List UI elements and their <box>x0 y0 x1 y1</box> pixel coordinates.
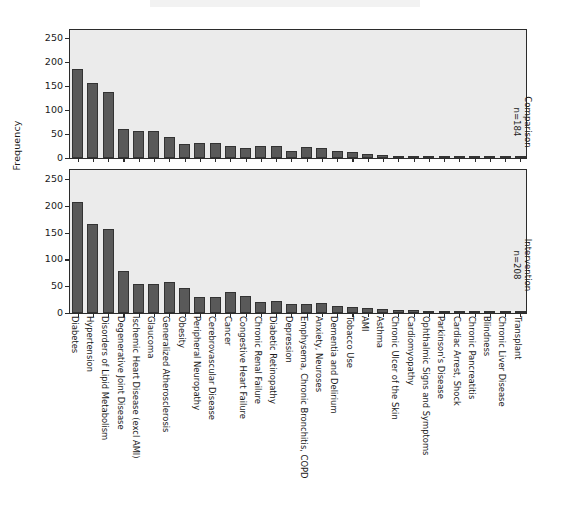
x-axis-category-label: Cardiac Arrest, Shock <box>452 316 462 406</box>
x-axis-tick <box>505 158 506 162</box>
x-axis-category-label: Chronic Liver Disease <box>497 316 507 407</box>
bar <box>332 306 343 314</box>
x-axis-category-label: Depression <box>284 316 294 363</box>
x-axis-category-label: Cardiomyopathy <box>406 316 416 385</box>
panel-title-comparison: Comparison n=184 <box>512 62 533 182</box>
x-axis-tick <box>322 158 323 162</box>
figure-top-band <box>150 0 420 7</box>
bar <box>316 148 327 158</box>
y-tick-label: 0 <box>57 307 63 318</box>
y-tick-mark <box>65 233 70 234</box>
y-tick-mark <box>65 259 70 260</box>
panel-title-intervention: Intervention n=208 <box>512 205 533 325</box>
bar <box>72 69 83 158</box>
x-axis-tick <box>459 158 460 162</box>
bar <box>133 284 144 313</box>
x-axis-tick <box>291 158 292 162</box>
y-tick-mark <box>65 38 70 39</box>
x-axis-tick <box>429 158 430 162</box>
y-tick-label: 50 <box>51 280 63 291</box>
y-tick-label: 150 <box>45 227 63 238</box>
y-tick-mark <box>65 158 70 159</box>
bar <box>87 83 98 158</box>
x-axis-tick <box>169 158 170 162</box>
y-tick-mark <box>65 206 70 207</box>
bar <box>133 131 144 158</box>
plot-area-comparison <box>70 30 526 158</box>
bar <box>87 224 98 313</box>
x-axis-category-label: Congestive Heart Failure <box>238 316 248 419</box>
bar <box>164 282 175 313</box>
x-axis-category-label: Chronic Ulcer of the Skin <box>390 316 400 420</box>
figure: Frequency 050100150200250 Comparison n=1… <box>0 0 586 528</box>
y-tick-label: 200 <box>45 200 63 211</box>
x-axis-category-label: Diabetic Retinopathy <box>268 316 278 404</box>
bar <box>194 143 205 158</box>
bar <box>240 296 251 313</box>
x-axis-tick <box>200 158 201 162</box>
bar <box>103 92 114 158</box>
x-axis-category-label: Generalized Atherosclerosis <box>161 316 171 432</box>
y-tick-label: 200 <box>45 56 63 67</box>
x-axis-category-label: Blindness <box>482 316 492 356</box>
x-axis-category-label: Cancer <box>223 316 233 346</box>
x-axis-tick <box>337 158 338 162</box>
bar <box>255 146 266 158</box>
bar <box>148 131 159 158</box>
bar <box>271 301 282 313</box>
bar <box>316 303 327 313</box>
y-tick-label: 50 <box>51 128 63 139</box>
bar <box>240 148 251 158</box>
x-axis-category-label: Diabetes <box>70 316 80 353</box>
x-axis-tick <box>307 158 308 162</box>
x-axis-category-label: Hypertension <box>85 316 95 372</box>
y-tick-mark <box>65 134 70 135</box>
y-tick-label: 100 <box>45 104 63 115</box>
y-tick-mark <box>65 179 70 180</box>
x-axis-tick <box>246 158 247 162</box>
x-axis-tick <box>383 158 384 162</box>
y-tick-mark <box>65 86 70 87</box>
x-axis-category-label: Asthma <box>375 316 385 348</box>
bar <box>271 146 282 158</box>
bar <box>286 151 297 158</box>
x-axis-tick <box>368 158 369 162</box>
y-tick-mark <box>65 286 70 287</box>
bar <box>210 143 221 158</box>
x-axis-category-label: Chronic Pancreatitis <box>467 316 477 399</box>
bar <box>118 271 129 313</box>
x-axis-category-label: Chronic Renal Failure <box>253 316 263 404</box>
bar <box>301 304 312 313</box>
x-axis-category-label: Degenerative Joint Disease <box>116 316 126 430</box>
x-axis-category-label: Emphysema, Chronic Bronchitis, COPD <box>299 316 309 479</box>
bar <box>225 146 236 158</box>
x-axis-category-label: Transplant <box>513 316 523 360</box>
y-tick-mark <box>65 110 70 111</box>
x-axis-category-label: Disorders of Lipid Metabolism <box>100 316 110 440</box>
plot-area-intervention <box>70 170 526 313</box>
bar <box>255 302 266 313</box>
bar-group-comparison <box>70 30 526 158</box>
bar <box>72 202 83 313</box>
x-axis-category-label: Glaucoma <box>146 316 156 358</box>
x-axis-tick <box>215 158 216 162</box>
x-axis-tick <box>398 158 399 162</box>
x-axis-category-label: Peripheral Neuropathy <box>192 316 202 410</box>
bar-group-intervention <box>70 170 526 313</box>
x-axis-tick <box>139 158 140 162</box>
y-axis-title: Frequency <box>11 86 22 206</box>
x-axis-tick <box>276 158 277 162</box>
bar <box>332 151 343 158</box>
x-axis-category-label: Anxiety, Neuroses <box>314 316 324 392</box>
bar <box>148 284 159 313</box>
bar <box>286 304 297 313</box>
x-axis-category-label: Cerebrovascular Disease <box>207 316 217 420</box>
y-tick-label: 100 <box>45 253 63 264</box>
x-axis-category-label: Parkinson's Disease <box>436 316 446 399</box>
panel-intervention: 050100150200250 <box>69 169 527 314</box>
x-axis-tick <box>108 158 109 162</box>
bar <box>301 147 312 158</box>
x-axis-category-label: Tobacco Use <box>345 316 355 368</box>
x-axis-category-label: AMI <box>360 316 370 331</box>
y-tick-mark <box>65 313 70 314</box>
